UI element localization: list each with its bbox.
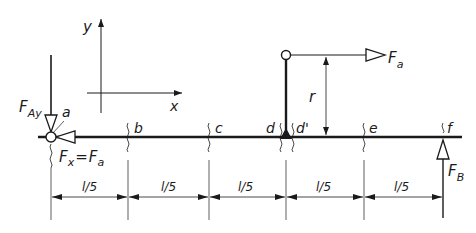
section-marks	[50, 123, 444, 168]
arrowhead-open-right	[366, 49, 385, 61]
force-label-F-Ay: FAy	[19, 98, 42, 120]
point-label-f: f	[447, 120, 454, 136]
force-label-F-x: Fx=Fa	[59, 148, 104, 169]
section-mark-a	[50, 144, 52, 168]
arrowhead-open-left	[56, 131, 75, 143]
beam-diagram: y x a b c d d' e f FAy Fx=Fa Fa	[0, 0, 476, 233]
arrowhead-open-up	[437, 140, 449, 159]
arrowhead-open-down	[45, 115, 57, 132]
pin-support-a	[46, 132, 56, 142]
force-F-a: Fa	[366, 49, 404, 71]
dimension-label-4: l/5	[316, 180, 331, 194]
point-label-b: b	[134, 120, 143, 136]
point-label-a: a	[62, 104, 71, 120]
force-F-Ay: FAy	[19, 55, 57, 132]
coordinate-axes: y x	[82, 18, 182, 114]
lever-label-r: r	[309, 88, 316, 106]
pin-top	[282, 51, 291, 60]
force-label-F-B: FB	[448, 162, 464, 184]
dimension-label-5: l/5	[394, 180, 409, 194]
dimension-label-1: l/5	[82, 180, 97, 194]
dimension-label-2: l/5	[161, 180, 176, 194]
lever-dimension-r: r	[309, 57, 326, 135]
y-axis-label: y	[82, 18, 93, 36]
point-label-e: e	[369, 120, 378, 136]
dimension-chain: l/5 l/5 l/5 l/5 l/5	[52, 180, 442, 197]
x-axis-label: x	[169, 98, 179, 114]
point-label-d-prime: d'	[296, 120, 309, 136]
point-label-d: d	[266, 120, 275, 136]
point-label-c: c	[215, 120, 223, 136]
section-mark-f	[442, 123, 444, 133]
force-label-F-a: Fa	[388, 49, 404, 71]
dimension-label-3: l/5	[238, 180, 253, 194]
force-F-B: FB	[437, 140, 464, 218]
